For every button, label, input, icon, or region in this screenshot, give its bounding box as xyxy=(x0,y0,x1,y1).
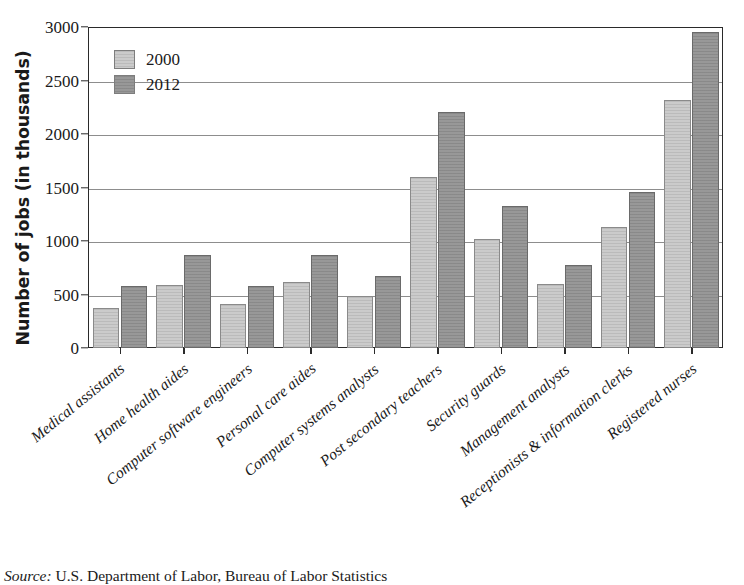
bar xyxy=(347,296,374,348)
bar xyxy=(410,177,437,348)
bar xyxy=(565,265,592,348)
bar xyxy=(184,255,211,348)
y-axis-tick-label: 2000 xyxy=(9,126,79,143)
x-axis-tick-label: Medical assistants xyxy=(28,360,129,446)
bar xyxy=(474,239,501,348)
y-axis-tick-mark xyxy=(81,133,88,134)
legend-label: 2000 xyxy=(146,51,180,68)
y-axis-tick-mark xyxy=(81,187,88,188)
legend-swatch xyxy=(114,75,135,94)
bar xyxy=(375,276,402,348)
y-axis-tick-label: 2500 xyxy=(9,72,79,89)
bar xyxy=(692,32,719,348)
source-note: Source: U.S. Department of Labor, Bureau… xyxy=(4,567,387,585)
bar xyxy=(220,304,247,348)
x-axis-tick-mark xyxy=(628,348,629,354)
bar xyxy=(283,282,310,348)
legend-item: 2000 xyxy=(114,47,180,72)
x-axis-tick-label: Post secondary teachers xyxy=(316,360,445,469)
legend-label: 2012 xyxy=(146,76,180,93)
x-axis-tick-mark xyxy=(310,348,311,354)
x-axis-tick-mark xyxy=(691,348,692,354)
y-axis-tick-mark xyxy=(81,80,88,81)
source-label: Source: xyxy=(4,567,52,584)
y-axis-tick-mark xyxy=(81,240,88,241)
y-axis-tick-label: 500 xyxy=(9,286,79,303)
bar xyxy=(156,285,183,348)
x-axis-tick-label: Receptionists & information clerks xyxy=(456,360,636,510)
legend-item: 2012 xyxy=(114,72,180,97)
x-axis-tick-label: Registered nurses xyxy=(603,360,700,443)
bar xyxy=(438,112,465,348)
y-axis-tick-label: 3000 xyxy=(9,19,79,36)
x-axis-tick-label: Home health aides xyxy=(90,360,192,447)
y-axis-tick-mark xyxy=(81,26,88,27)
bar xyxy=(248,286,275,348)
x-axis-tick-label: Personal care aides xyxy=(212,360,319,452)
y-axis-tick-label: 1000 xyxy=(9,233,79,250)
x-axis-tick-label: Security guards xyxy=(423,360,510,435)
bar xyxy=(121,286,148,348)
y-axis-tick-mark xyxy=(81,294,88,295)
chart-legend: 20002012 xyxy=(114,47,180,97)
y-axis-tick-mark xyxy=(81,347,88,348)
y-axis-tick-label: 0 xyxy=(9,340,79,357)
x-axis-tick-mark xyxy=(374,348,375,354)
x-axis-tick-mark xyxy=(501,348,502,354)
bar xyxy=(93,308,120,348)
x-axis-tick-label: Computer systems analysts xyxy=(241,360,383,480)
source-text: U.S. Department of Labor, Bureau of Labo… xyxy=(52,567,388,584)
legend-swatch xyxy=(114,50,135,69)
x-axis-tick-label: Management analysts xyxy=(456,360,573,459)
bar xyxy=(537,284,564,348)
x-axis-tick-mark xyxy=(183,348,184,354)
x-axis-tick-mark xyxy=(437,348,438,354)
bar xyxy=(629,192,656,348)
bar-series-layer xyxy=(88,27,723,348)
bar xyxy=(502,206,529,348)
x-axis-tick-label: Computer software engineers xyxy=(102,360,255,489)
bar xyxy=(601,227,628,348)
bar xyxy=(311,255,338,348)
x-axis-tick-mark xyxy=(120,348,121,354)
y-axis-tick-label: 1500 xyxy=(9,179,79,196)
bar xyxy=(664,100,691,348)
x-axis-tick-mark xyxy=(564,348,565,354)
x-axis-tick-mark xyxy=(247,348,248,354)
